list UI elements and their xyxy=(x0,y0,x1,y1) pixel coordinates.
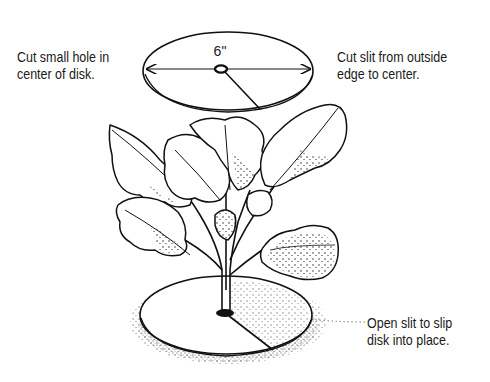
annotation-open-slit: Open slit to slip disk into place. xyxy=(367,315,452,349)
annotation-line: center of disk. xyxy=(17,66,109,83)
top-disk: 6" xyxy=(143,32,313,112)
annotation-line: Cut small hole in xyxy=(17,49,109,66)
annotation-cut-hole: Cut small hole in center of disk. xyxy=(17,49,109,83)
dimension-label: 6" xyxy=(214,43,227,59)
annotation-line: Cut slit from outside xyxy=(337,49,447,66)
center-hole xyxy=(215,65,227,72)
diagram-canvas: 6" xyxy=(0,0,490,382)
annotation-line: edge to center. xyxy=(337,66,447,83)
annotation-line: disk into place. xyxy=(367,332,452,349)
annotation-line: Open slit to slip xyxy=(367,315,452,332)
plant-hole xyxy=(216,309,234,317)
annotation-cut-slit: Cut slit from outside edge to center. xyxy=(337,49,447,83)
